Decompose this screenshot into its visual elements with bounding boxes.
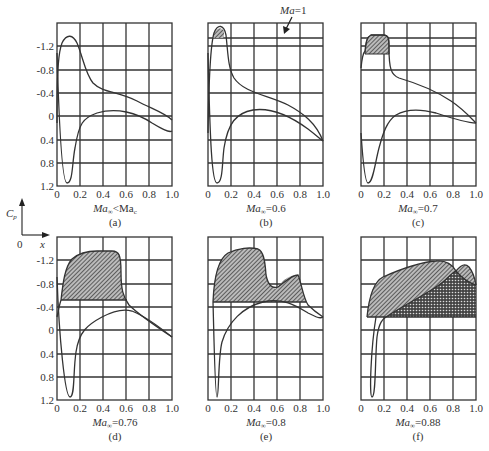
svg-text:0.8: 0.8 [293, 188, 307, 200]
y-axis-ticks-a: -1.2 -0.8 -0.4 0 0.4 0.8 1.2 [37, 40, 55, 192]
x-axis-ticks-f: 0 0.2 0.4 0.6 0.8 1.0 [358, 402, 483, 414]
panel-a [57, 23, 172, 186]
svg-text:0.6: 0.6 [423, 402, 437, 414]
svg-text:-1.2: -1.2 [37, 254, 54, 266]
condition-label-e: Ma∞=0.8 [245, 416, 286, 430]
svg-text:0.8: 0.8 [142, 188, 156, 200]
svg-text:0.4: 0.4 [40, 348, 54, 360]
condition-label-c: Ma∞=0.7 [397, 202, 438, 216]
svg-text:-0.8: -0.8 [37, 278, 55, 290]
svg-text:0.8: 0.8 [142, 402, 156, 414]
svg-text:-1.2: -1.2 [37, 40, 54, 52]
condition-label-a: Ma∞<Mac [92, 202, 137, 216]
svg-text:0: 0 [205, 402, 211, 414]
y-axis-ticks-d: -1.2 -0.8 -0.4 0 0.4 0.8 1.2 [37, 254, 55, 406]
condition-label-b: Ma∞=0.6 [245, 202, 286, 216]
lower-surface-curve [361, 110, 476, 183]
svg-text:0.4: 0.4 [247, 188, 261, 200]
svg-text:0.2: 0.2 [377, 402, 391, 414]
caption-c: (c) [412, 216, 425, 229]
x-axis-ticks-e: 0 0.2 0.4 0.6 0.8 1.0 [205, 402, 330, 414]
x-axis-ticks-d: 0 0.2 0.4 0.6 0.8 1.0 [54, 402, 179, 414]
x-axis-ticks-c: 0 0.2 0.4 0.6 0.8 1.0 [358, 188, 483, 200]
svg-text:0.2: 0.2 [224, 402, 238, 414]
svg-text:-0.8: -0.8 [37, 64, 55, 76]
svg-text:0.4: 0.4 [400, 188, 414, 200]
panel-b [208, 23, 323, 186]
svg-text:0.6: 0.6 [270, 402, 284, 414]
svg-text:0: 0 [49, 110, 55, 122]
svg-text:1.0: 1.0 [316, 402, 330, 414]
svg-text:0.2: 0.2 [73, 402, 87, 414]
svg-text:0.6: 0.6 [270, 188, 284, 200]
x-axis-ticks-b: 0 0.2 0.4 0.6 0.8 1.0 [205, 188, 330, 200]
caption-b: (b) [260, 216, 273, 229]
panel-e [208, 237, 323, 400]
svg-text:1.0: 1.0 [469, 188, 483, 200]
caption-a: (a) [109, 216, 122, 229]
svg-text:0.8: 0.8 [40, 371, 54, 383]
svg-text:1.0: 1.0 [165, 188, 179, 200]
svg-text:0: 0 [54, 188, 60, 200]
svg-text:1.0: 1.0 [316, 188, 330, 200]
svg-text:1.2: 1.2 [40, 180, 54, 192]
x-axis-ticks-a: 0 0.2 0.4 0.6 0.8 1.0 [54, 188, 179, 200]
svg-text:x: x [39, 238, 45, 250]
caption-e: (e) [260, 430, 273, 443]
svg-text:0: 0 [49, 324, 55, 336]
cp-distribution-figure: -1.2 -0.8 -0.4 0 0.4 0.8 1.2 0 0.2 0.4 0… [0, 0, 489, 451]
svg-text:0.6: 0.6 [423, 188, 437, 200]
svg-text:0.6: 0.6 [119, 402, 133, 414]
caption-d: (d) [109, 430, 122, 443]
ma1-annotation: Ma=1 [279, 4, 306, 34]
svg-text:Ma=1: Ma=1 [279, 4, 306, 16]
svg-text:0.2: 0.2 [224, 188, 238, 200]
svg-text:0.8: 0.8 [293, 402, 307, 414]
svg-text:1.2: 1.2 [40, 394, 54, 406]
svg-text:0.4: 0.4 [96, 188, 110, 200]
svg-text:0.8: 0.8 [446, 402, 460, 414]
svg-text:Cp: Cp [6, 207, 17, 221]
panel-f [361, 237, 476, 400]
lower-surface-curve [213, 301, 323, 397]
svg-text:0: 0 [358, 402, 364, 414]
svg-text:0.4: 0.4 [247, 402, 261, 414]
svg-text:1.0: 1.0 [165, 402, 179, 414]
svg-text:0.4: 0.4 [96, 402, 110, 414]
svg-text:0.4: 0.4 [400, 402, 414, 414]
upper-surface-curve [208, 26, 323, 141]
svg-text:0.8: 0.8 [40, 157, 54, 169]
svg-text:0: 0 [54, 402, 60, 414]
svg-text:1.0: 1.0 [469, 402, 483, 414]
svg-text:0: 0 [358, 188, 364, 200]
svg-text:0.2: 0.2 [73, 188, 87, 200]
panel-c [361, 23, 476, 186]
svg-text:-0.4: -0.4 [37, 301, 55, 313]
svg-text:0.8: 0.8 [446, 188, 460, 200]
panel-d [57, 237, 172, 400]
axis-legend-icon: Cp 0 x [6, 198, 50, 250]
svg-text:0: 0 [205, 188, 211, 200]
condition-label-d: Ma∞=0.76 [91, 416, 138, 430]
caption-f: (f) [413, 430, 424, 443]
svg-text:0: 0 [17, 238, 23, 250]
svg-text:0.2: 0.2 [377, 188, 391, 200]
svg-text:0.6: 0.6 [119, 188, 133, 200]
condition-label-f: Ma∞=0.88 [394, 416, 441, 430]
svg-text:0.4: 0.4 [40, 134, 54, 146]
svg-text:-0.4: -0.4 [37, 87, 55, 99]
